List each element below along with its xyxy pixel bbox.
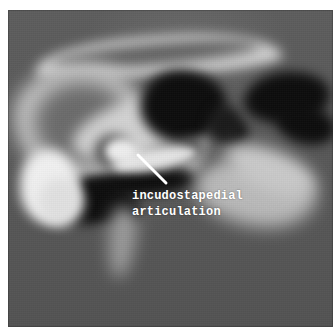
annotation-label-line-2: articulation	[132, 205, 221, 219]
carotid-canal-lucency	[208, 106, 242, 142]
ct-scan-viewer: incudostapedialarticulation	[0, 0, 335, 329]
ct-scan-image: incudostapedialarticulation	[8, 10, 333, 327]
annotation-label: incudostapedialarticulation	[132, 188, 243, 220]
annotation-label-line-1: incudostapedial	[132, 189, 243, 203]
incus-body	[104, 138, 138, 164]
anterior-canal-wall-low	[38, 178, 84, 226]
